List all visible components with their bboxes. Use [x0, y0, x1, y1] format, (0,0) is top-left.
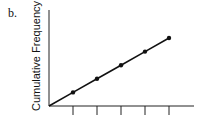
- data-point: [119, 63, 123, 67]
- data-point: [71, 90, 75, 94]
- chart-plot: [0, 0, 199, 123]
- data-point: [143, 49, 147, 53]
- data-line: [49, 38, 169, 106]
- data-point: [167, 36, 171, 40]
- data-point: [95, 77, 99, 81]
- x-axis-ticks: [73, 106, 169, 115]
